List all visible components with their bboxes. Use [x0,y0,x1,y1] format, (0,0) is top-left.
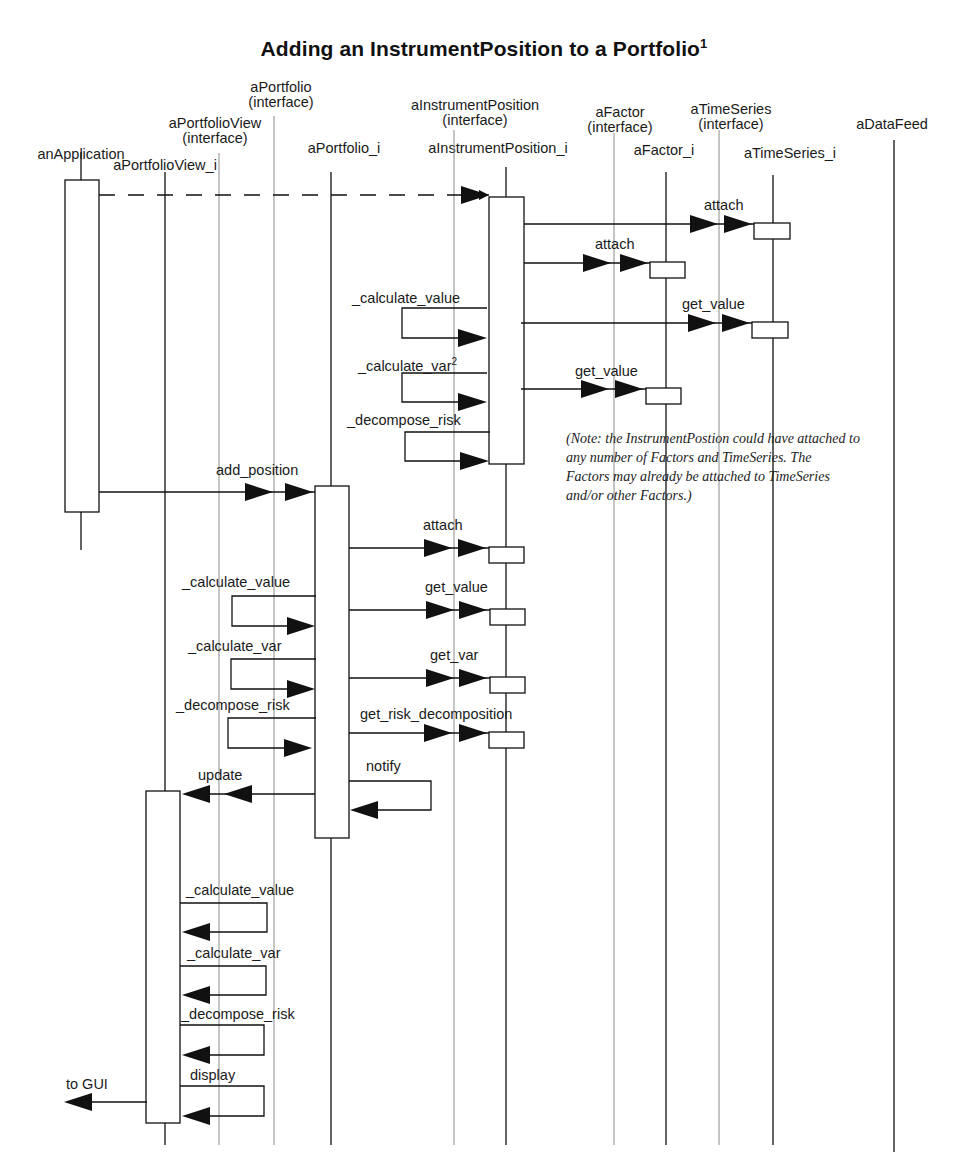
arrow-ip-calculate-var [402,373,487,402]
message-label-pf-notify: notify [366,759,401,774]
message-label-to-gui: to GUI [66,1077,108,1092]
activation-ip-attach [489,547,524,563]
message-label-ip-get-value-factor: get_value [575,364,638,379]
activation-aInstrumentPosition-i [489,197,524,464]
arrow-pf-decompose-risk [228,718,316,748]
message-label-ip-attach-timeseries: attach [704,198,744,213]
message-label-pv-calculate-var: _calculate_var [187,946,281,961]
sequence-diagram: Adding an InstrumentPosition to a Portfo… [0,0,968,1165]
arrow-pv-calculate-var [180,966,266,995]
message-label-ip-get-value-timeseries: get_value [682,297,745,312]
message-label-pf-decompose-risk: _decompose_risk [176,698,290,713]
activation-aTimeSeries-attach [754,223,790,239]
message-label-pf-calculate-var: _calculate_var [188,639,282,654]
message-label-ip-calculate-value: _calculate_value [352,291,460,306]
message-label-ip-calculate-var: _calculate_var2 [358,354,457,374]
message-label-pf-get-var: get_var [430,648,478,663]
arrow-pv-calculate-value [180,903,267,932]
note-annotation: (Note: the InstrumentPostion could have … [566,429,966,505]
activation-ip-get-risk [489,732,524,748]
message-label-pf-calculate-value: _calculate_value [182,575,290,590]
activation-ip-get-var [490,677,525,693]
arrow-pv-decompose-risk [180,1025,264,1055]
message-label-pv-calculate-value: _calculate_value [186,883,294,898]
message-label-add-position: add_position [216,463,298,478]
arrow-pf-notify [349,781,431,810]
activation-anApplication [65,180,99,512]
message-label-pf-attach: attach [423,518,463,533]
activation-aPortfolioView-i [146,791,180,1123]
message-label-pv-display: display [190,1068,235,1083]
arrow-pv-display [180,1086,264,1116]
message-label-ip-attach-factor: attach [595,237,635,252]
message-label-pv-decompose-risk: _decompose_risk [181,1007,295,1022]
message-label-ip-decompose-risk: _decompose_risk [347,413,461,428]
activation-boxes [65,180,790,1123]
activation-aFactor-get-value [646,388,681,404]
message-label-pf-get-value: get_value [425,580,488,595]
activation-aFactor-attach [650,262,685,278]
arrow-ip-decompose-risk [405,432,490,461]
message-label-pf-get-risk-decomposition: get_risk_decomposition [360,707,512,722]
arrow-ip-calculate-value [402,308,487,338]
activation-aPortfolio-i [315,486,349,838]
activation-aTimeSeries-get-value [752,322,788,338]
message-label-update: update [198,768,242,783]
activation-ip-get-value [490,609,525,625]
